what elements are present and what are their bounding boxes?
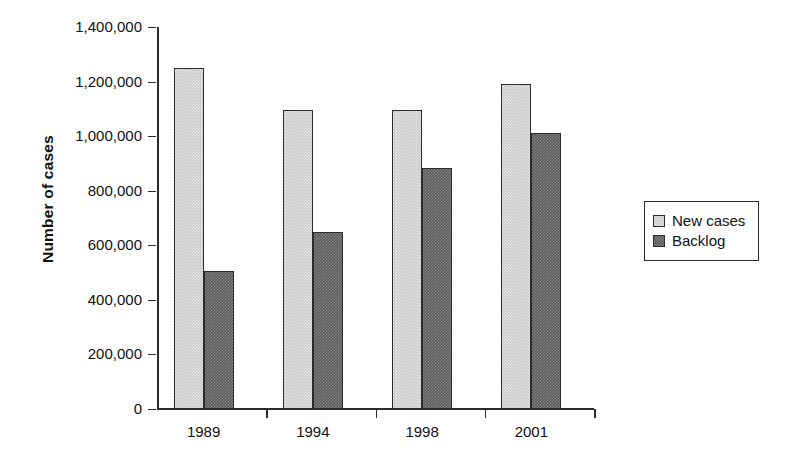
legend-item-new-cases[interactable]: New cases <box>653 212 745 229</box>
bar-1989-new-cases <box>174 68 204 409</box>
bar-2001-new-cases <box>501 84 531 409</box>
bar-2001-backlog <box>531 133 561 409</box>
y-axis-tick-label: 800,000 <box>30 183 142 198</box>
y-axis-tick-label: 400,000 <box>30 292 142 307</box>
y-axis-tick-mark <box>148 191 156 192</box>
y-axis-tick-mark <box>148 82 156 83</box>
y-axis-tick-label: 1,000,000 <box>30 128 142 143</box>
y-axis-tick-mark <box>148 409 156 410</box>
y-axis-tick-mark <box>148 27 156 28</box>
y-axis-tick-label: 1,200,000 <box>30 74 142 89</box>
legend-swatch-icon <box>653 235 665 247</box>
x-axis-tick-label-1994: 1994 <box>253 423 373 440</box>
bar-1989-backlog <box>204 271 234 409</box>
x-axis-tick-mark <box>376 409 378 418</box>
y-axis-tick-label: 200,000 <box>30 346 142 361</box>
bar-1994-backlog <box>313 232 343 409</box>
y-axis-tick-label: 1,400,000 <box>30 19 142 34</box>
y-axis-tick-label: 600,000 <box>30 237 142 252</box>
bar-1998-new-cases <box>392 110 422 409</box>
legend-item-label: Backlog <box>672 232 725 249</box>
y-axis-tick-mark <box>148 300 156 301</box>
x-axis-tick-label-1989: 1989 <box>144 423 264 440</box>
plot-area <box>157 27 594 409</box>
y-axis-tick-label: 0 <box>30 401 142 416</box>
y-axis-tick-labels: 1,400,0001,200,0001,000,000800,000600,00… <box>30 0 142 472</box>
x-axis-tick-mark <box>266 409 268 418</box>
bar-chart: Number of cases 1,400,0001,200,0001,000,… <box>0 0 802 472</box>
x-axis-tick-mark <box>594 409 596 418</box>
x-axis-tick-mark <box>485 409 487 418</box>
bar-1998-backlog <box>422 168 452 409</box>
chart-legend: New casesBacklog <box>644 201 759 261</box>
legend-swatch-icon <box>653 215 665 227</box>
x-axis-tick-label-1998: 1998 <box>362 423 482 440</box>
bar-1994-new-cases <box>283 110 313 409</box>
y-axis-tick-mark <box>148 354 156 355</box>
y-axis-tick-mark <box>148 245 156 246</box>
legend-item-label: New cases <box>672 212 745 229</box>
legend-item-backlog[interactable]: Backlog <box>653 232 745 249</box>
y-axis-tick-mark <box>148 136 156 137</box>
x-axis-tick-label-2001: 2001 <box>471 423 591 440</box>
